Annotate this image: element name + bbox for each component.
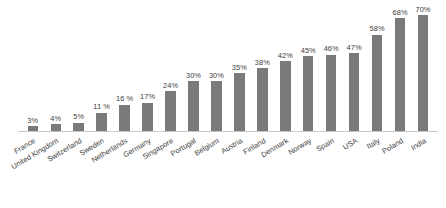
x-axis-tick-label: India [409,136,428,152]
bar-value-label: 45% [301,46,316,55]
bar [142,103,153,131]
bar-value-label: 30% [186,71,201,80]
plot-area: 3%4%5%11 %16 %17%24%30%30%35%38%42%45%46… [22,4,434,131]
bar [51,124,62,131]
bar [257,68,268,131]
bar [188,81,199,131]
bar-group: 70% [412,4,434,131]
bar-value-label: 46% [324,44,339,53]
bar-group: 16 % [114,4,136,131]
bar [211,81,222,131]
bar-value-label: 30% [209,71,224,80]
x-axis-label-cell: Spain [320,133,342,205]
bar [418,15,429,131]
x-axis-labels: FranceUnited KingdomSwitzerlandSwedenNet… [22,133,434,205]
bar-group: 45% [297,4,319,131]
bar-group: 11 % [91,4,113,131]
bar-group: 68% [389,4,411,131]
bar-value-label: 58% [370,24,385,33]
bar-value-label: 70% [415,5,430,14]
bar-group: 58% [366,4,388,131]
bar [395,18,406,131]
bars-container: 3%4%5%11 %16 %17%24%30%30%35%38%42%45%46… [22,4,434,131]
bar-group: 5% [68,4,90,131]
bar-value-label: 5% [73,112,84,121]
bar-value-label: 38% [255,58,270,67]
bar [303,56,314,131]
bar-group: 17% [137,4,159,131]
bar-group: 47% [343,4,365,131]
bar-value-label: 42% [278,51,293,60]
bar [349,53,360,131]
bar [372,35,383,131]
bar-value-label: 3% [27,116,38,125]
bar [234,73,245,131]
bar-group: 4% [45,4,67,131]
bar-value-label: 47% [347,43,362,52]
bar [165,91,176,131]
bar-group: 30% [206,4,228,131]
bar-value-label: 68% [393,8,408,17]
x-axis-label-cell: India [412,133,434,205]
x-axis-line [18,131,438,132]
x-axis-tick-label: Italy [365,136,381,151]
bar-group: 35% [229,4,251,131]
bar-value-label: 11 % [93,102,110,111]
x-axis-label-cell: Poland [389,133,411,205]
x-axis-label-cell: Austria [229,133,251,205]
bar-group: 30% [183,4,205,131]
bar-chart: 3%4%5%11 %16 %17%24%30%30%35%38%42%45%46… [0,0,446,208]
bar [96,113,107,131]
bar-value-label: 17% [140,92,155,101]
bar-value-label: 24% [163,81,178,90]
bar [280,61,291,131]
bar [119,105,130,132]
bar-group: 38% [252,4,274,131]
x-axis-label-cell: USA [343,133,365,205]
bar-group: 24% [160,4,182,131]
bar-group: 42% [274,4,296,131]
bar [73,123,84,131]
bar [326,55,337,131]
bar-value-label: 4% [50,114,61,123]
bar-value-label: 35% [232,63,247,72]
bar-group: 46% [320,4,342,131]
bar-group: 3% [22,4,44,131]
x-axis-tick-label: USA [341,136,359,152]
bar-value-label: 16 % [116,94,133,103]
x-axis-label-cell: Italy [366,133,388,205]
